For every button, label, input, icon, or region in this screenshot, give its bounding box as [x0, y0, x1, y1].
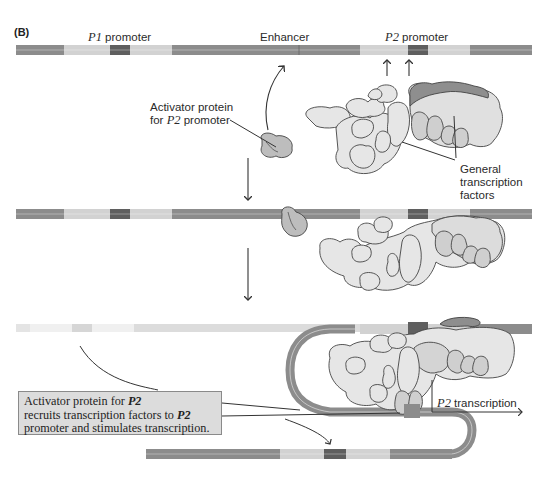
general-transcription-factors-cluster: [306, 85, 410, 174]
callout-line1-p2: P2: [128, 394, 142, 408]
callout-line3: promoter and stimulates transcription.: [24, 422, 217, 436]
dna-strand-bottom-lower: [146, 449, 452, 459]
activator-label-p2: P2: [167, 113, 181, 127]
activator-label-line2: for P2 promoter: [150, 114, 233, 127]
activator-label-for: for: [150, 114, 167, 126]
enhancer-box-loop: [404, 404, 420, 418]
panel-label: (B): [14, 26, 29, 38]
curved-arrow-icon: [266, 66, 284, 130]
callout-line2-text: recruits transcription factors to: [24, 408, 177, 422]
callout-line2-p2: P2: [177, 408, 191, 422]
activator-callout-box: Activator protein for P2 recruits transc…: [18, 391, 222, 435]
callout-curve-line: [80, 346, 158, 390]
p2-transcription-label: P2 transcription: [437, 397, 517, 410]
rna-polymerase-cluster: [409, 82, 503, 158]
gtf-line1: General: [460, 163, 523, 176]
callout-line1-text: Activator protein for: [24, 394, 128, 408]
transcription-complex-middle: [320, 216, 505, 291]
enhancer-label: Enhancer: [260, 31, 309, 44]
p2-italic: P2: [385, 30, 399, 44]
callout-line1: Activator protein for P2: [24, 395, 217, 409]
general-transcription-factors-label: General transcription factors: [460, 163, 523, 202]
callout-line2: recruits transcription factors to P2: [24, 409, 217, 423]
p2-promoter-label: P2 promoter: [385, 31, 448, 44]
activator-protein-label: Activator protein for P2 promoter: [150, 101, 233, 127]
callout-arrow-to-promoter: [285, 419, 330, 444]
p1-text: promoter: [102, 31, 151, 43]
p1-italic: P1: [88, 30, 102, 44]
gtf-line2: transcription: [460, 176, 523, 189]
p2-transcription-text: transcription: [451, 397, 517, 409]
p2-text: promoter: [399, 31, 448, 43]
callout-leader-1: [222, 403, 300, 410]
gtf-line3: factors: [460, 189, 523, 202]
dna-strand-top: [16, 45, 532, 55]
p1-promoter-label: P1 promoter: [88, 31, 151, 44]
p2-transcription-italic: P2: [437, 396, 451, 410]
activator-label-line1: Activator protein: [150, 101, 233, 114]
activator-label-promoter: promoter: [181, 114, 230, 126]
activator-protein-icon: [261, 133, 292, 158]
